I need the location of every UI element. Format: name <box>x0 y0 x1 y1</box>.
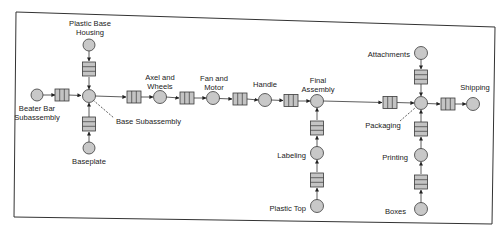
label-line: Subassembly <box>14 113 60 122</box>
queue-attachments <box>415 70 428 84</box>
label-beater-bar: Beater Bar Subassembly <box>14 104 60 122</box>
label-boxes: Boxes <box>385 207 406 216</box>
node-attachments <box>415 47 428 60</box>
node-shipping <box>467 98 480 111</box>
label-base-subassembly: Base Subassembly <box>116 117 181 126</box>
label-line: Housing <box>69 28 111 37</box>
node-boxes <box>415 203 428 216</box>
label-line: Beater Bar <box>14 104 60 113</box>
node-axel-wheels <box>154 91 167 104</box>
node-beater-bar <box>31 89 43 101</box>
queue-boxes <box>415 175 428 189</box>
label-packaging: Packaging <box>365 121 400 130</box>
node-final-assembly <box>311 95 324 108</box>
node-packaging <box>415 97 428 110</box>
label-attachments: Attachments <box>368 50 410 59</box>
label-handle: Handle <box>253 80 277 89</box>
queue-handle-to-final <box>284 95 298 107</box>
label-baseplate: Baseplate <box>72 157 106 166</box>
node-baseplate <box>83 142 95 154</box>
queue-axel-to-fan <box>180 92 194 104</box>
node-plastic-top <box>311 200 324 213</box>
node-printing <box>415 149 428 162</box>
node-fan-motor <box>207 92 220 105</box>
queue-base-to-axel <box>127 91 141 103</box>
node-labeling <box>311 147 324 160</box>
label-line: Axel and <box>145 73 175 82</box>
label-line: Motor <box>200 83 228 92</box>
label-final-assembly: Final Assembly <box>302 76 335 94</box>
label-plastic-base-housing: Plastic Base Housing <box>69 19 111 37</box>
label-line: Final <box>302 76 335 85</box>
queue-beater <box>55 89 69 101</box>
queue-printing-to-packaging <box>415 122 428 136</box>
queue-labeling-to-final <box>311 121 324 135</box>
label-line: Plastic Base <box>69 19 111 28</box>
label-printing: Printing <box>382 153 408 162</box>
label-line: Assembly <box>302 85 335 94</box>
queue-baseplate <box>83 117 96 131</box>
label-line: Fan and <box>200 74 228 83</box>
label-axel-wheels: Axel and Wheels <box>145 73 175 91</box>
queue-fan-to-handle <box>233 93 247 105</box>
node-base-subassembly <box>83 90 96 103</box>
node-plastic-base-housing <box>83 39 95 51</box>
queue-plastic-top <box>311 173 324 187</box>
label-fan-motor: Fan and Motor <box>200 74 228 92</box>
node-handle <box>259 94 272 107</box>
label-shipping: Shipping <box>460 83 490 92</box>
label-labeling: Labeling <box>277 151 306 160</box>
queue-packaging-to-shipping <box>441 98 455 110</box>
label-plastic-top: Plastic Top <box>269 204 306 213</box>
queue-plastic-base <box>83 62 96 76</box>
queue-final-to-packaging <box>383 97 397 109</box>
label-line: Wheels <box>145 82 175 91</box>
